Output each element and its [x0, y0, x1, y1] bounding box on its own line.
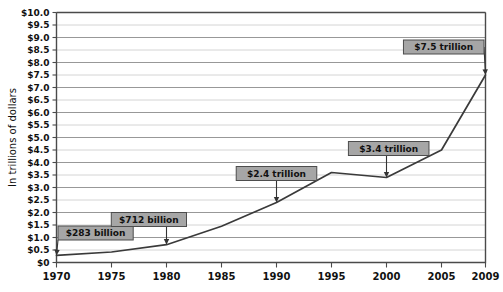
y-tick-label: $10.0: [21, 8, 49, 18]
x-tick-label: 2009: [472, 271, 500, 282]
y-tick-label: $6.0: [27, 108, 49, 118]
y-tick-label: $3.0: [27, 183, 49, 193]
y-tick-label: $4.0: [27, 158, 49, 168]
x-tick-label: 1995: [318, 271, 346, 282]
y-tick-label: $8.0: [27, 58, 49, 68]
y-tick-label: $0: [37, 258, 50, 268]
x-tick-label: 1985: [208, 271, 236, 282]
y-tick-label: $3.5: [27, 170, 49, 180]
x-tick-label: 1975: [98, 271, 126, 282]
x-tick-label: 1980: [153, 271, 181, 282]
annotation-label: $2.4 trillion: [247, 169, 306, 179]
line-chart: $0$0.5$1.0$1.5$2.0$2.5$3.0$3.5$4.0$4.5$5…: [0, 0, 503, 292]
annotation-label: $283 billion: [66, 228, 126, 238]
annotation-label: $712 billion: [119, 215, 179, 225]
y-axis-title-group: In trillions of dollars: [7, 88, 18, 187]
x-tick-label: 1970: [43, 271, 71, 282]
y-tick-label: $9.0: [27, 33, 49, 43]
y-tick-label: $9.5: [27, 20, 49, 30]
y-tick-label: $2.5: [27, 195, 49, 205]
y-axis-title: In trillions of dollars: [7, 88, 18, 187]
x-tick-label: 1990: [263, 271, 291, 282]
annotation-label: $7.5 trillion: [414, 42, 473, 52]
y-tick-label: $6.5: [27, 95, 49, 105]
y-tick-label: $1.5: [27, 220, 49, 230]
y-tick-label: $8.5: [27, 45, 49, 55]
y-tick-label: $1.0: [27, 233, 49, 243]
y-tick-label: $7.0: [27, 83, 49, 93]
x-tick-label: 2000: [373, 271, 401, 282]
y-tick-label: $4.5: [27, 145, 49, 155]
annotation-label: $3.4 trillion: [359, 144, 418, 154]
y-tick-label: $5.5: [27, 120, 49, 130]
x-tick-label: 2005: [428, 271, 456, 282]
chart-canvas: $0$0.5$1.0$1.5$2.0$2.5$3.0$3.5$4.0$4.5$5…: [0, 0, 503, 292]
y-tick-label: $2.0: [27, 208, 49, 218]
y-tick-label: $5.0: [27, 133, 49, 143]
y-tick-label: $0.5: [27, 245, 49, 255]
y-tick-label: $7.5: [27, 70, 49, 80]
